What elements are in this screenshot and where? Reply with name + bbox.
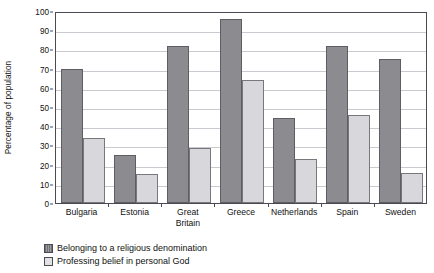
legend-item-label: Belonging to a religious denomination xyxy=(57,243,207,253)
bar-chart: Percentage of population 010203040506070… xyxy=(0,0,434,273)
y-axis-title-label: Percentage of population xyxy=(5,61,14,154)
y-axis-tick-label: 40 xyxy=(40,123,49,132)
legend-swatch-dark-hatched-icon xyxy=(44,244,53,253)
y-axis-tick-mark xyxy=(50,88,53,89)
y-axis-tick-label: 50 xyxy=(40,104,49,113)
y-axis-tick-mark xyxy=(50,204,53,205)
chart-legend: Belonging to a religious denomination Pr… xyxy=(44,243,207,269)
legend-item-label: Professing belief in personal God xyxy=(57,256,190,266)
y-axis-tick-mark xyxy=(50,31,53,32)
x-axis-label: Estonia xyxy=(120,207,149,218)
y-axis-tick-label: 30 xyxy=(40,142,49,151)
bar[interactable] xyxy=(348,115,370,203)
x-axis-label: Netherlands xyxy=(271,207,317,218)
y-axis-tick-group: 0102030405060708090100 xyxy=(24,12,53,204)
bar[interactable] xyxy=(189,148,211,203)
bar-group xyxy=(162,13,215,203)
legend-item[interactable]: Belonging to a religious denomination xyxy=(44,243,207,253)
x-axis-tick-mark xyxy=(374,203,375,207)
y-axis-tick-mark xyxy=(50,12,53,13)
bar[interactable] xyxy=(379,59,401,203)
bars-layer xyxy=(56,13,426,203)
y-axis-tick-label: 100 xyxy=(35,8,49,17)
y-axis-tick-label: 70 xyxy=(40,65,49,74)
bar-group xyxy=(56,13,109,203)
x-axis-tick-mark xyxy=(268,203,269,207)
y-axis-tick-label: 80 xyxy=(40,46,49,55)
bar[interactable] xyxy=(167,46,189,203)
bar[interactable] xyxy=(114,155,136,203)
y-axis-tick-mark xyxy=(50,165,53,166)
x-axis-label: Spain xyxy=(336,207,358,218)
y-axis-tick-label: 60 xyxy=(40,84,49,93)
x-axis-labels: BulgariaEstoniaGreat BritainGreeceNether… xyxy=(55,207,427,237)
bar-group xyxy=(215,13,268,203)
x-axis-label: Greece xyxy=(227,207,255,218)
x-axis-tick-mark xyxy=(161,203,162,207)
x-axis-tick-mark xyxy=(214,203,215,207)
y-axis-tick-mark xyxy=(50,184,53,185)
y-axis-tick-mark xyxy=(50,50,53,51)
bar[interactable] xyxy=(242,80,264,203)
x-axis-tick-mark xyxy=(108,203,109,207)
plot-area xyxy=(55,12,427,204)
x-axis-label: Sweden xyxy=(385,207,416,218)
bar[interactable] xyxy=(220,19,242,203)
bar[interactable] xyxy=(273,118,295,203)
legend-item[interactable]: Professing belief in personal God xyxy=(44,256,207,266)
bar-group xyxy=(269,13,322,203)
y-axis-title: Percentage of population xyxy=(0,0,18,215)
bar[interactable] xyxy=(295,159,317,203)
bar[interactable] xyxy=(326,46,348,203)
y-axis-tick-mark xyxy=(50,146,53,147)
y-axis-tick-label: 90 xyxy=(40,27,49,36)
bar-group xyxy=(322,13,375,203)
y-axis-tick-mark xyxy=(50,127,53,128)
y-axis-tick-label: 0 xyxy=(44,200,49,209)
x-axis-label: Bulgaria xyxy=(66,207,98,218)
bar[interactable] xyxy=(136,174,158,203)
y-axis-tick-label: 20 xyxy=(40,161,49,170)
y-axis-tick-mark xyxy=(50,108,53,109)
bar[interactable] xyxy=(83,138,105,203)
legend-swatch-light-icon xyxy=(44,257,53,266)
x-axis-tick-mark xyxy=(321,203,322,207)
x-axis-label: Great Britain xyxy=(176,207,200,228)
bar-group xyxy=(375,13,428,203)
y-axis-tick-mark xyxy=(50,69,53,70)
bar[interactable] xyxy=(401,173,423,203)
bar-group xyxy=(109,13,162,203)
y-axis-tick-label: 10 xyxy=(40,180,49,189)
bar[interactable] xyxy=(61,69,83,203)
